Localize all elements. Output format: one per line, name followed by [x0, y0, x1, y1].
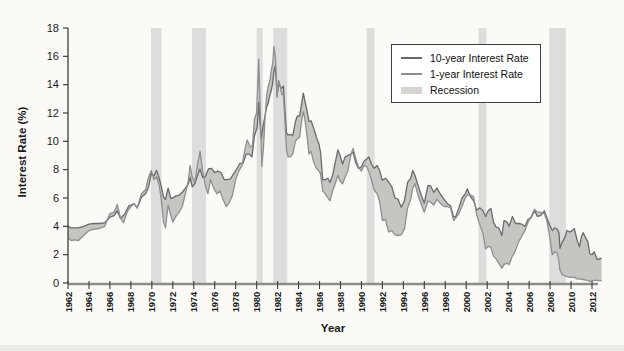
page-margin-strip	[0, 345, 624, 351]
x-tick-label: 2004	[503, 291, 514, 312]
y-axis-title: Interest Rate (%)	[16, 107, 28, 198]
legend-label-10-year: 10-year Interest Rate	[430, 52, 529, 64]
x-tick-label: 2000	[461, 292, 472, 312]
x-tick-label: 1984	[293, 291, 304, 312]
legend-item-1-year: 1-year Interest Rate	[401, 68, 529, 80]
x-tick-label: 1962	[63, 292, 74, 312]
x-tick-label: 2012	[587, 292, 598, 312]
x-tick-label: 1972	[167, 292, 178, 312]
x-tick-label: 1978	[230, 292, 241, 312]
legend-label-1-year: 1-year Interest Rate	[430, 68, 523, 80]
x-tick-label: 1990	[356, 292, 367, 312]
x-tick-label: 1976	[209, 292, 220, 312]
x-tick-label: 1968	[125, 292, 136, 312]
y-tick-label: 0	[53, 277, 59, 289]
recession-swatch	[401, 87, 422, 94]
x-tick-label: 1970	[146, 292, 157, 312]
ten-year-line-swatch	[401, 57, 422, 60]
x-tick-label: 1966	[104, 292, 115, 312]
x-tick-label: 1994	[398, 291, 409, 312]
legend-item-10-year: 10-year Interest Rate	[401, 52, 529, 64]
x-tick-label: 1986	[314, 292, 325, 312]
x-axis-title: Year	[321, 322, 345, 334]
x-tick-label: 1998	[440, 292, 451, 312]
legend-label-recession: Recession	[430, 84, 479, 96]
x-tick-label: 1988	[335, 292, 346, 312]
x-tick-label: 1980	[251, 292, 262, 312]
legend-item-recession: Recession	[401, 84, 529, 96]
x-tick-label: 1964	[83, 291, 94, 312]
x-tick-label: 1996	[419, 292, 430, 312]
interest-rate-figure: 0246810121416181962196419661968197019721…	[0, 0, 624, 351]
x-tick-label: 2006	[524, 292, 535, 312]
recession-band	[367, 28, 375, 283]
y-tick-label: 10	[47, 135, 59, 147]
y-tick-label: 6	[53, 192, 59, 204]
legend-box: 10-year Interest Rate 1-year Interest Ra…	[391, 44, 541, 103]
x-tick-label: 2008	[545, 292, 556, 312]
y-tick-label: 16	[47, 50, 59, 62]
x-tick-label: 2010	[566, 292, 577, 312]
y-tick-label: 4	[53, 220, 59, 232]
y-tick-label: 14	[47, 78, 59, 90]
x-tick-label: 2002	[482, 292, 493, 312]
x-tick-label: 1982	[272, 292, 283, 312]
recession-band	[151, 28, 161, 283]
y-tick-label: 12	[47, 107, 59, 119]
one-year-line-swatch	[401, 73, 422, 76]
y-tick-label: 2	[53, 248, 59, 260]
y-tick-label: 8	[53, 163, 59, 175]
y-tick-label: 18	[47, 22, 59, 34]
x-tick-label: 1992	[377, 292, 388, 312]
x-tick-label: 1974	[188, 291, 199, 312]
